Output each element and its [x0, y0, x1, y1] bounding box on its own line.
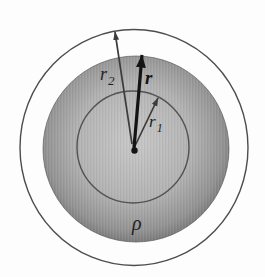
label-r1-subscript: 1	[157, 121, 163, 135]
diagram-canvas: r2 r r1 ρ	[0, 0, 265, 277]
label-r2-base: r	[100, 64, 108, 84]
label-r: r	[145, 67, 153, 88]
label-r1-base: r	[149, 112, 156, 131]
sphere-charge-diagram: r2 r r1 ρ	[0, 0, 265, 277]
center-dot	[131, 147, 137, 153]
label-rho: ρ	[131, 212, 142, 235]
label-r2-subscript: 2	[108, 73, 115, 88]
